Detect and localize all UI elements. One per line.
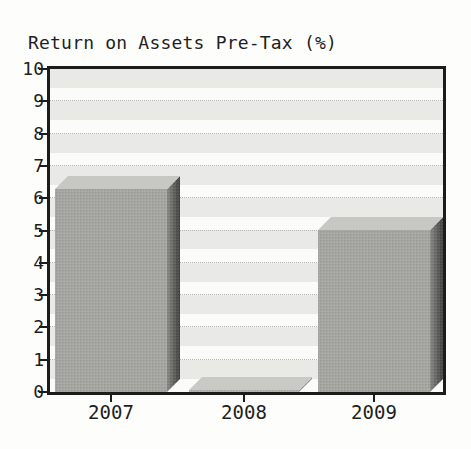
y-tick-label: 3 (4, 285, 44, 305)
y-tick-mark (39, 391, 48, 393)
bars-layer (50, 69, 443, 392)
y-tick-mark (39, 133, 48, 135)
y-tick-label: 2 (4, 317, 44, 337)
x-tick-label: 2008 (199, 401, 289, 423)
bar-2007 (55, 176, 180, 392)
bar-2009 (318, 217, 443, 392)
y-tick-mark (39, 230, 48, 232)
y-tick-mark (39, 68, 48, 70)
y-tick-label: 6 (4, 188, 44, 208)
y-tick-label: 7 (4, 156, 44, 176)
y-tick-label: 4 (4, 253, 44, 273)
chart-title: Return on Assets Pre-Tax (%) (28, 31, 337, 55)
y-tick-mark (39, 262, 48, 264)
y-tick-mark (39, 359, 48, 361)
y-tick-mark (39, 294, 48, 296)
y-tick-mark (39, 326, 48, 328)
y-tick-label: 10 (4, 59, 44, 79)
y-tick-mark (39, 197, 48, 199)
y-tick-label: 1 (4, 350, 44, 370)
y-tick-mark (39, 100, 48, 102)
y-tick-mark (39, 165, 48, 167)
chart-figure: Return on Assets Pre-Tax (%) 10987654321… (0, 0, 471, 449)
x-tick-label: 2007 (66, 401, 156, 423)
bar-2008 (189, 377, 312, 392)
plot-area (47, 66, 446, 395)
y-tick-label: 8 (4, 124, 44, 144)
y-tick-label: 5 (4, 221, 44, 241)
x-tick-label: 2009 (329, 401, 419, 423)
y-tick-label: 0 (4, 382, 44, 402)
y-tick-label: 9 (4, 91, 44, 111)
